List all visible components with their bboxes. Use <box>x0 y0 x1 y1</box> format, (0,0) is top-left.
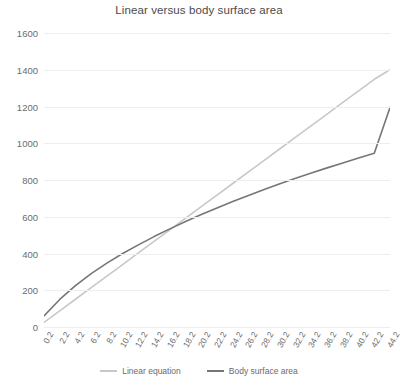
x-axis: 0.22.24.26.28.210.212.214.216.218.220.22… <box>44 330 390 364</box>
legend-label: Body surface area <box>229 366 298 376</box>
y-tick-label: 600 <box>0 211 38 222</box>
x-tick-label: 0.2 <box>41 330 56 345</box>
x-tick-label: 26.2 <box>243 330 260 349</box>
y-tick-label: 1000 <box>0 138 38 149</box>
x-tick-label: 18.2 <box>180 330 197 349</box>
gridline <box>44 327 390 328</box>
y-tick-label: 1200 <box>0 101 38 112</box>
legend-swatch-icon <box>100 370 117 372</box>
x-tick-label: 16.2 <box>165 330 182 349</box>
x-tick-label: 14.2 <box>149 330 166 349</box>
x-tick-label: 30.2 <box>275 330 292 349</box>
x-tick-label: 44.2 <box>385 330 402 349</box>
y-tick-label: 200 <box>0 285 38 296</box>
x-tick-label: 36.2 <box>322 330 339 349</box>
x-tick-label: 28.2 <box>259 330 276 349</box>
x-tick-label: 10.2 <box>117 330 134 349</box>
y-tick-label: 400 <box>0 248 38 259</box>
legend-item[interactable]: Linear equation <box>100 366 181 376</box>
chart-legend: Linear equationBody surface area <box>0 366 398 376</box>
x-tick-label: 6.2 <box>88 330 103 345</box>
x-tick-label: 12.2 <box>133 330 150 349</box>
y-axis: 16001400120010008006004002000 <box>0 33 398 327</box>
x-tick-label: 2.2 <box>57 330 72 345</box>
x-tick-label: 42.2 <box>369 330 386 349</box>
x-tick-label: 24.2 <box>227 330 244 349</box>
x-tick-label: 22.2 <box>212 330 229 349</box>
y-tick-label: 1600 <box>0 28 38 39</box>
x-tick-label: 38.2 <box>338 330 355 349</box>
x-tick-label: 20.2 <box>196 330 213 349</box>
x-tick-label: 40.2 <box>353 330 370 349</box>
chart-title: Linear versus body surface area <box>0 4 398 16</box>
x-tick-label: 32.2 <box>290 330 307 349</box>
x-tick-label: 8.2 <box>104 330 119 345</box>
legend-item[interactable]: Body surface area <box>207 366 298 376</box>
x-tick-label: 4.2 <box>73 330 88 345</box>
y-tick-label: 1400 <box>0 64 38 75</box>
x-tick-label: 34.2 <box>306 330 323 349</box>
y-tick-label: 800 <box>0 175 38 186</box>
legend-swatch-icon <box>207 370 224 372</box>
y-tick-label: 0 <box>0 322 38 333</box>
legend-label: Linear equation <box>122 366 181 376</box>
